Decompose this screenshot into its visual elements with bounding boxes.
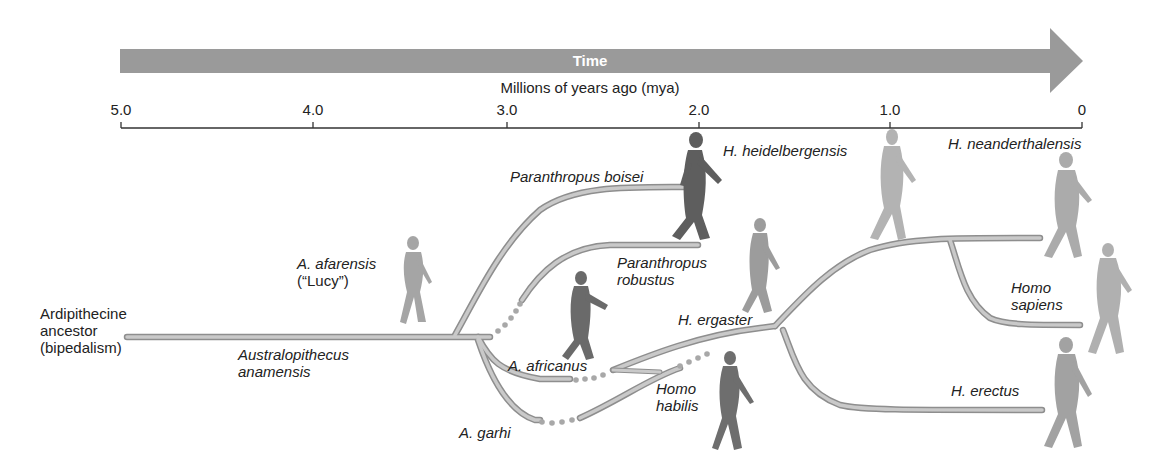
label-h-neanderthalensis: H. neanderthalensis: [948, 135, 1081, 152]
label-a-garhi: A. garhi: [459, 424, 511, 441]
time-arrow-label: Time: [573, 52, 608, 69]
tick-label-0: 0: [1078, 101, 1086, 118]
axis-title: Millions of years ago (mya): [500, 79, 679, 96]
label-h-heidelbergensis: H. heidelbergensis: [723, 142, 847, 159]
figure-a-africanus: [562, 271, 608, 360]
label-h-sapiens: Homo sapiens: [1011, 279, 1063, 313]
label-h-habilis: Homo habilis: [656, 380, 699, 414]
label-a-anamensis: Australopithecus anamensis: [238, 346, 349, 380]
label-a-africanus: A. africanus: [508, 357, 587, 374]
label-p-boisei: Paranthropus boisei: [510, 168, 643, 185]
figure-h-erectus: [1044, 337, 1092, 448]
figure-h-ergaster: [742, 218, 780, 313]
tick-label-1: 1.0: [880, 101, 901, 118]
figure-a-afarensis: [400, 236, 432, 324]
time-axis: [121, 122, 1082, 128]
label-a-afarensis: A. afarensis (“Lucy”): [297, 255, 376, 289]
label-h-erectus: H. erectus: [951, 382, 1019, 399]
tick-label-2: 2.0: [689, 101, 710, 118]
ancestor-label: Ardipithecine ancestor (bipedalism): [40, 305, 127, 356]
figure-h-neanderthalensis: [1044, 152, 1092, 258]
tick-label-5: 5.0: [111, 101, 132, 118]
figure-h-habilis: [712, 351, 754, 450]
figure-h-sapiens: [1088, 243, 1132, 354]
tick-label-4: 4.0: [303, 101, 324, 118]
label-h-ergaster: H. ergaster: [678, 311, 752, 328]
figure-h-heidelbergensis: [870, 129, 916, 240]
diagram-graphics: [0, 0, 1175, 474]
hominin-phylogeny-diagram: Time Millions of years ago (mya) 5.0 4.0…: [0, 0, 1175, 474]
tick-label-3: 3.0: [497, 101, 518, 118]
label-p-robustus: Paranthropus robustus: [617, 254, 707, 288]
